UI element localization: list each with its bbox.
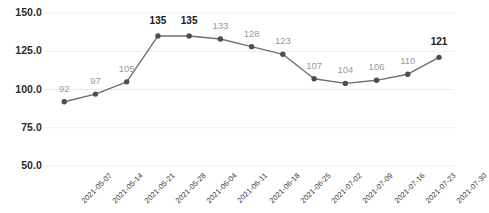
data-point-marker bbox=[155, 33, 160, 38]
data-point-marker bbox=[405, 72, 410, 77]
data-point-value-label: 104 bbox=[337, 64, 353, 75]
data-point-value-label: 107 bbox=[306, 60, 322, 71]
data-point-marker bbox=[218, 36, 223, 41]
y-axis-tick-label: 50.0 bbox=[0, 159, 42, 171]
data-point-value-label: 97 bbox=[90, 75, 101, 86]
data-point-value-label: 92 bbox=[59, 83, 70, 94]
data-point-value-label: 128 bbox=[244, 28, 260, 39]
data-point-value-label: 105 bbox=[119, 63, 135, 74]
y-axis-tick-label: 75.0 bbox=[0, 121, 42, 133]
y-axis-tick-label: 125.0 bbox=[0, 44, 42, 56]
data-point-value-label: 133 bbox=[212, 20, 228, 31]
data-point-marker bbox=[374, 78, 379, 83]
data-point-marker bbox=[343, 81, 348, 86]
y-axis-tick-label: 100.0 bbox=[0, 83, 42, 95]
data-point-value-label: 106 bbox=[369, 61, 385, 72]
data-point-marker bbox=[124, 79, 129, 84]
data-point-marker bbox=[62, 99, 67, 104]
data-point-marker bbox=[93, 91, 98, 96]
data-point-marker bbox=[436, 55, 441, 60]
data-point-value-label: 135 bbox=[181, 15, 198, 26]
data-point-value-label: 123 bbox=[275, 35, 291, 46]
data-point-marker bbox=[280, 52, 285, 57]
data-point-value-label: 121 bbox=[431, 36, 448, 47]
y-axis-tick-label: 150.0 bbox=[0, 6, 42, 18]
data-point-value-label: 110 bbox=[400, 55, 415, 66]
data-point-value-label: 135 bbox=[150, 15, 167, 26]
data-point-marker bbox=[249, 44, 254, 49]
data-point-marker bbox=[311, 76, 316, 81]
data-point-marker bbox=[186, 33, 191, 38]
